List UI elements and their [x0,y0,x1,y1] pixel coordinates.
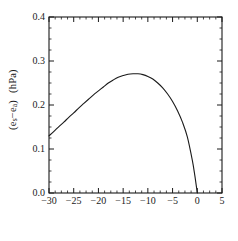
x-tick-label: 0 [195,196,200,206]
major-tick-marks [49,17,222,193]
x-tick-label: −5 [167,196,178,206]
data-curve [49,74,197,193]
x-tick-label: −20 [91,196,107,206]
y-tick-label: 0.3 [16,56,45,66]
axes-frame [49,17,222,193]
y-tick-label: 0.2 [16,100,45,110]
x-tick-label: −10 [140,196,156,206]
x-tick-labels: −30 −25 −20 −15 −10 −5 0 5 [0,196,238,212]
x-tick-label: −30 [41,196,57,206]
x-tick-label: 5 [220,196,225,206]
x-tick-label: −25 [66,196,82,206]
x-tick-label: −15 [115,196,131,206]
y-tick-label: 0.4 [16,12,45,22]
minor-tick-marks [49,17,222,193]
chart-figure: (es−ea)(hPa) 0.4 0.3 0.2 0.1 0.0 −30 −25… [0,0,238,241]
y-tick-label: 0.1 [16,144,45,154]
